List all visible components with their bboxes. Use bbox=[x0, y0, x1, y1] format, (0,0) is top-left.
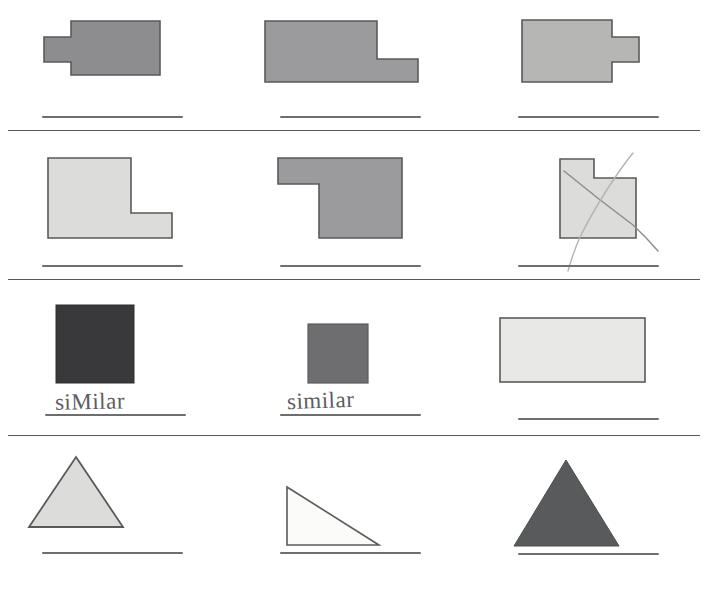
dark-isosceles-triangle-icon bbox=[478, 436, 717, 592]
answer-line-r4c1[interactable] bbox=[42, 552, 183, 554]
answer-line-r1c1[interactable] bbox=[42, 116, 183, 118]
answer-line-r4c2[interactable] bbox=[280, 552, 421, 554]
light-isosceles-triangle-icon bbox=[0, 436, 239, 592]
worksheet-row-3: siMilar similar bbox=[0, 280, 717, 435]
shape-cell-r1c3[interactable] bbox=[478, 0, 717, 130]
white-right-triangle-icon bbox=[239, 436, 478, 592]
shape-cell-r3c2[interactable]: similar bbox=[239, 280, 478, 435]
answer-line-r3c1[interactable] bbox=[45, 414, 186, 416]
shape-cell-r4c3[interactable] bbox=[478, 436, 717, 592]
answer-line-r3c3[interactable] bbox=[518, 418, 659, 420]
shape-cell-r3c3[interactable] bbox=[478, 280, 717, 435]
answer-line-r2c2[interactable] bbox=[280, 265, 421, 267]
shape-cell-r2c2[interactable] bbox=[239, 131, 478, 279]
rectangle-with-right-tab-icon bbox=[478, 0, 717, 130]
worksheet-row-2 bbox=[0, 131, 717, 279]
shape-cell-r1c1[interactable] bbox=[0, 0, 239, 130]
shape-cell-r3c1[interactable]: siMilar bbox=[0, 280, 239, 435]
worksheet-page: siMilar similar bbox=[0, 0, 717, 592]
answer-line-r1c2[interactable] bbox=[280, 116, 421, 118]
answer-line-r2c3[interactable] bbox=[518, 265, 659, 267]
crossed-out-mark-icon bbox=[478, 125, 717, 285]
shape-cell-r4c1[interactable] bbox=[0, 436, 239, 592]
answer-line-r3c2[interactable] bbox=[280, 414, 421, 416]
answer-line-r2c1[interactable] bbox=[42, 265, 183, 267]
worksheet-row-4 bbox=[0, 436, 717, 592]
shape-cell-r2c3[interactable] bbox=[478, 131, 717, 279]
small-gray-square-icon bbox=[239, 280, 478, 435]
l-shape-bottom-right-extension-icon bbox=[239, 0, 478, 130]
answer-line-r1c3[interactable] bbox=[518, 116, 659, 118]
worksheet-row-1 bbox=[0, 0, 717, 130]
shape-cell-r1c2[interactable] bbox=[239, 0, 478, 130]
shape-cell-r2c1[interactable] bbox=[0, 131, 239, 279]
rectangle-with-left-tab-icon bbox=[0, 0, 239, 130]
wide-light-rectangle-icon bbox=[478, 280, 717, 435]
l-shape-notch-bottom-left-icon bbox=[239, 131, 478, 279]
l-shape-notch-bottom-right-icon bbox=[0, 131, 239, 279]
large-dark-square-icon bbox=[0, 280, 239, 435]
answer-line-r4c3[interactable] bbox=[518, 553, 659, 555]
shape-cell-r4c2[interactable] bbox=[239, 436, 478, 592]
